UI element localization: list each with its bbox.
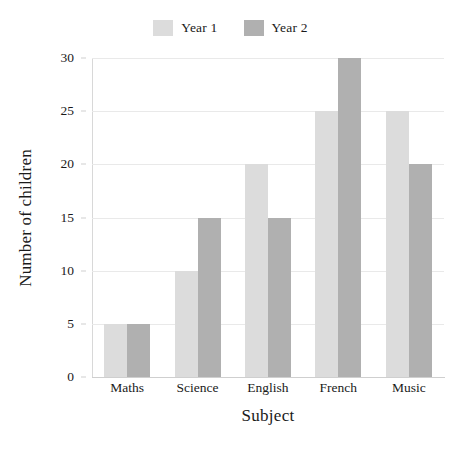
legend-swatch-icon-year-2 <box>244 20 264 36</box>
x-tick-label: French <box>306 381 370 395</box>
y-tick-label: 20 <box>61 158 75 172</box>
y-tick-label: 15 <box>61 211 75 225</box>
bar-group <box>175 58 221 377</box>
bar-science-year-2 <box>198 218 221 378</box>
x-axis-title: Subject <box>92 406 444 426</box>
y-tick-label: 30 <box>61 51 75 65</box>
x-axis-title-label: Subject <box>241 406 294 425</box>
y-tick-mark <box>81 217 86 218</box>
x-tick-label: Maths <box>95 381 159 395</box>
y-tick-label: 25 <box>61 104 75 118</box>
x-tick-label: Music <box>377 381 441 395</box>
bar-french-year-2 <box>338 58 361 377</box>
y-axis-ticks: 051015202530 <box>0 58 86 377</box>
bar-french-year-1 <box>315 111 338 377</box>
bar-chart: Year 1 Year 2 Number of children 0510152… <box>0 0 461 456</box>
legend-label-year-1: Year 1 <box>181 21 217 35</box>
legend-label-year-2: Year 2 <box>272 21 308 35</box>
x-axis-ticks: MathsScienceEnglishFrenchMusic <box>92 381 444 395</box>
bar-science-year-1 <box>175 271 198 377</box>
bar-music-year-2 <box>409 164 432 377</box>
bar-group <box>104 58 150 377</box>
y-tick-label: 10 <box>61 264 75 278</box>
y-tick-mark <box>81 377 86 378</box>
x-tick-label: English <box>236 381 300 395</box>
y-tick-mark <box>81 270 86 271</box>
y-tick-mark <box>81 111 86 112</box>
bar-group <box>315 58 361 377</box>
legend-entry-year-1: Year 1 <box>153 20 217 36</box>
bar-maths-year-1 <box>104 324 127 377</box>
plot-area <box>92 58 444 377</box>
chart-legend: Year 1 Year 2 <box>0 20 461 36</box>
x-tick-label: Science <box>166 381 230 395</box>
y-tick-mark <box>81 323 86 324</box>
bar-music-year-1 <box>386 111 409 377</box>
y-tick-label: 0 <box>67 370 74 384</box>
bar-groups <box>92 58 444 377</box>
y-tick-mark <box>81 58 86 59</box>
bar-maths-year-2 <box>127 324 150 377</box>
bar-group <box>386 58 432 377</box>
x-axis-line <box>92 377 445 378</box>
bar-english-year-2 <box>268 218 291 378</box>
bar-english-year-1 <box>245 164 268 377</box>
bar-group <box>245 58 291 377</box>
legend-entry-year-2: Year 2 <box>244 20 308 36</box>
legend-swatch-icon-year-1 <box>153 20 173 36</box>
y-tick-label: 5 <box>67 317 74 331</box>
y-tick-mark <box>81 164 86 165</box>
